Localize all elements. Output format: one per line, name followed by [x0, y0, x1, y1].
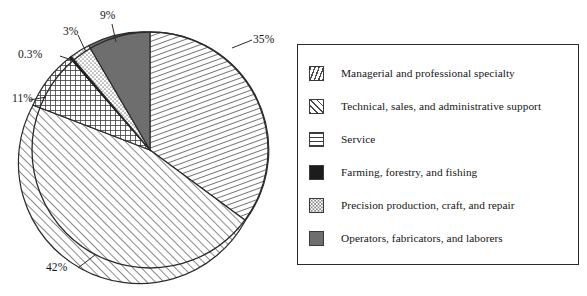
pie-chart-figure: 35% 42% 11% 0.3% 3% 9% Managerial and pr…: [0, 0, 587, 296]
legend-label-operators: Operators, fabricators, and laborers: [341, 232, 503, 245]
pie-label-service: 11%: [12, 92, 33, 104]
legend-item-service[interactable]: Service: [309, 123, 572, 155]
legend-item-managerial[interactable]: Managerial and professional specialty: [309, 57, 572, 89]
pie-label-farming: 0.3%: [18, 48, 42, 60]
legend-label-service: Service: [341, 133, 375, 146]
legend-item-operators[interactable]: Operators, fabricators, and laborers: [309, 222, 572, 254]
legend-label-managerial: Managerial and professional specialty: [341, 67, 515, 80]
legend-item-farming[interactable]: Farming, forestry, and fishing: [309, 156, 572, 188]
legend-swatch-diagonal-hatch-steep-backslash-icon: [309, 66, 324, 81]
legend-list: Managerial and professional specialty Te…: [309, 57, 572, 258]
pie-label-operators: 9%: [100, 9, 116, 21]
legend-swatch-solid-gray-icon: [309, 231, 324, 246]
legend-label-farming: Farming, forestry, and fishing: [341, 166, 477, 179]
legend-swatch-crosshatch-grid-icon: [309, 132, 324, 147]
pie-chart-area: 35% 42% 11% 0.3% 3% 9%: [0, 0, 300, 296]
legend-label-technical: Technical, sales, and administrative sup…: [341, 100, 541, 113]
legend-label-precision: Precision production, craft, and repair: [341, 199, 515, 212]
legend-item-technical[interactable]: Technical, sales, and administrative sup…: [309, 90, 572, 122]
legend-swatch-diagonal-hatch-forwardslash-icon: [309, 99, 324, 114]
pie-label-technical: 42%: [46, 261, 67, 273]
legend: Managerial and professional specialty Te…: [297, 44, 579, 265]
pie-label-managerial: 35%: [253, 33, 274, 45]
legend-item-precision[interactable]: Precision production, craft, and repair: [309, 189, 572, 221]
legend-swatch-solid-black-icon: [309, 165, 324, 180]
pie-label-precision: 3%: [63, 25, 79, 37]
leader-line-managerial: [232, 40, 252, 48]
legend-swatch-light-stipple-dots-icon: [309, 198, 324, 213]
